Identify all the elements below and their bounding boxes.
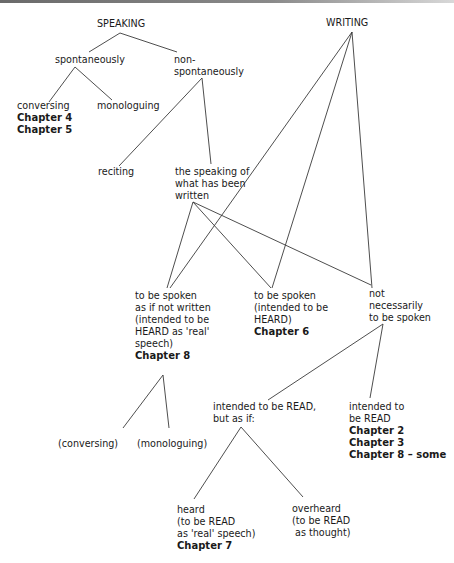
node-label: WRITING: [326, 17, 368, 29]
node-label: SPEAKING: [97, 18, 145, 30]
node-speaking: SPEAKING: [97, 18, 145, 30]
node-label: (to be READ: [292, 515, 350, 527]
node-label: spontaneously: [174, 66, 244, 78]
node-label: as thought): [292, 527, 350, 539]
node-label: to be spoken: [254, 290, 328, 302]
edge-asifnotwritten-monologuing: [163, 375, 169, 428]
node-label: necessarily: [369, 300, 431, 312]
node-label: intended to: [349, 401, 446, 413]
node-label: as 'real' speech): [177, 528, 255, 540]
edge-nonspontaneously-reciting: [119, 78, 202, 166]
edge-speakingwritten-notnecessarily: [193, 202, 371, 285]
node-not-necessarily-spoken: not necessarily to be spoken: [369, 288, 431, 324]
node-label: monologuing: [97, 100, 160, 112]
edge-speaking-nonspontaneously: [120, 33, 177, 52]
chapter-ref: Chapter 5: [17, 124, 72, 136]
chapter-ref: Chapter 6: [254, 326, 328, 338]
node-spoken-heard: to be spoken (intended to be HEARD) Chap…: [254, 290, 328, 338]
chapter-ref: Chapter 4: [17, 112, 72, 124]
node-monologuing: monologuing: [97, 100, 160, 112]
node-label: HEARD as 'real': [135, 326, 211, 338]
edge-notnecessarily-intendedread: [370, 324, 383, 398]
node-speaking-of-written: the speaking of what has been written: [175, 166, 249, 202]
node-spontaneously: spontaneously: [55, 54, 125, 66]
node-label: heard: [177, 504, 255, 516]
node-label: (to be READ: [177, 516, 255, 528]
edge-speakingwritten-asifnotwritten: [167, 202, 193, 288]
edge-asifnotwritten-conversing: [123, 375, 163, 428]
node-label: HEARD): [254, 314, 328, 326]
edge-speakingwritten-spokenheard: [193, 202, 271, 288]
node-conversing-paren: (conversing): [58, 438, 118, 450]
node-label: to be spoken: [369, 312, 431, 324]
node-label: as if not written: [135, 302, 211, 314]
edge-nonspontaneously-speakingwritten: [202, 78, 211, 164]
edge-writing-spokenheard: [272, 32, 352, 288]
node-conversing: conversing Chapter 4 Chapter 5: [17, 100, 72, 136]
node-label: speech): [135, 338, 211, 350]
node-label: (conversing): [58, 438, 118, 450]
chapter-ref: Chapter 3: [349, 437, 446, 449]
edge-speaking-spontaneously: [89, 33, 120, 52]
edge-readbutasif-overheard: [241, 427, 303, 497]
edge-spontaneously-conversing: [49, 67, 75, 102]
node-label: not: [369, 288, 431, 300]
node-label: overheard: [292, 503, 350, 515]
node-non-spontaneously: non- spontaneously: [174, 54, 244, 78]
node-monologuing-paren: (monologuing): [137, 438, 207, 450]
node-label: (intended to be: [254, 302, 328, 314]
node-label: to be spoken: [135, 290, 211, 302]
chapter-ref: Chapter 8 – some: [349, 449, 446, 461]
node-label: conversing: [17, 100, 72, 112]
node-label: (intended to be: [135, 314, 211, 326]
node-label: be READ: [349, 413, 446, 425]
tree-connectors: [0, 0, 454, 563]
chapter-ref: Chapter 8: [135, 350, 211, 362]
edge-writing-notnecessarily: [352, 32, 372, 288]
node-label: the speaking of: [175, 166, 249, 178]
node-reciting: reciting: [98, 166, 134, 178]
node-label: written: [175, 190, 249, 202]
node-label: spontaneously: [55, 54, 125, 66]
node-label: but as if:: [213, 413, 316, 425]
node-read-but-as-if: intended to be READ, but as if:: [213, 401, 316, 425]
chapter-ref: Chapter 2: [349, 425, 446, 437]
node-label: non-: [174, 54, 244, 66]
chapter-ref: Chapter 7: [177, 540, 255, 552]
node-label: reciting: [98, 166, 134, 178]
node-heard: heard (to be READ as 'real' speech) Chap…: [177, 504, 255, 552]
node-overheard: overheard (to be READ as thought): [292, 503, 350, 539]
edge-spontaneously-monologuing: [75, 67, 112, 100]
node-intended-read: intended to be READ Chapter 2 Chapter 3 …: [349, 401, 446, 461]
node-label: (monologuing): [137, 438, 207, 450]
node-label: intended to be READ,: [213, 401, 316, 413]
node-writing: WRITING: [326, 17, 368, 29]
node-spoken-as-if-not-written: to be spoken as if not written (intended…: [135, 290, 211, 362]
node-label: what has been: [175, 178, 249, 190]
